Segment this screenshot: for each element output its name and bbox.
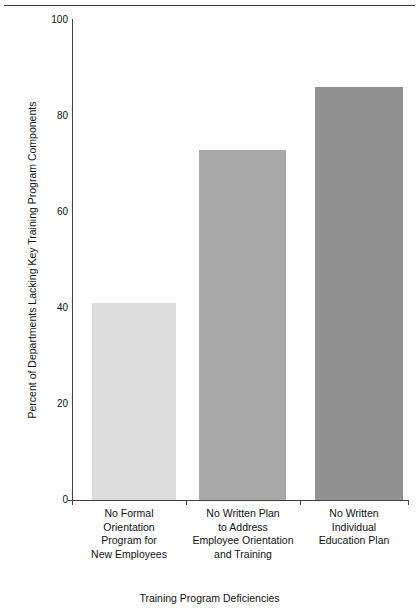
y-axis-tick-value: 40 xyxy=(38,303,68,313)
x-axis-tick-mark xyxy=(186,500,187,505)
x-axis-category-label: No Written Planto AddressEmployee Orient… xyxy=(179,507,307,561)
x-axis-category-label-line: Individual xyxy=(293,521,415,535)
y-axis-tick-label: 20 xyxy=(34,399,68,409)
bar xyxy=(315,87,403,500)
y-axis-title: Percent of Departments Lacking Key Train… xyxy=(26,80,38,440)
y-axis-tick-label: 0 xyxy=(34,495,68,505)
x-axis-category-label-line: Program for xyxy=(65,534,193,548)
x-axis-category-label-line: No Formal xyxy=(65,507,193,521)
y-axis-tick-label: 100 xyxy=(34,15,68,25)
x-axis-category-label-line: Orientation xyxy=(65,521,193,535)
x-axis-line xyxy=(72,500,408,501)
bar-chart-figure: 020406080100 No FormalOrientationProgram… xyxy=(0,0,419,614)
x-axis-tick-mark xyxy=(300,500,301,505)
plot-area: 020406080100 No FormalOrientationProgram… xyxy=(0,0,419,614)
x-axis-category-label: No FormalOrientationProgram forNew Emplo… xyxy=(65,507,193,561)
y-axis-tick-label: 40 xyxy=(34,303,68,313)
x-axis-category-label-line: to Address xyxy=(179,521,307,535)
bar xyxy=(92,303,176,500)
y-axis-tick-label: 80 xyxy=(34,111,68,121)
y-axis-tick-value: 60 xyxy=(38,207,68,217)
x-axis-category-label: No WrittenIndividualEducation Plan xyxy=(293,507,415,548)
x-axis-category-label-line: No Written Plan xyxy=(179,507,307,521)
x-axis-tick-mark xyxy=(72,500,73,505)
y-axis-tick-value: 100 xyxy=(38,15,68,25)
x-axis-category-label-line: and Training xyxy=(179,548,307,562)
x-axis-category-label-line: Education Plan xyxy=(293,534,415,548)
x-axis-category-label-line: New Employees xyxy=(65,548,193,562)
x-axis-category-label-line: Employee Orientation xyxy=(179,534,307,548)
y-axis-tick-value: 0 xyxy=(38,495,68,505)
y-axis-tick-value: 80 xyxy=(38,111,68,121)
y-axis-tick-label: 60 xyxy=(34,207,68,217)
x-axis-tick-mark xyxy=(408,500,409,505)
y-axis-tick-value: 20 xyxy=(38,399,68,409)
x-axis-title: Training Program Deficiencies xyxy=(0,592,419,604)
bar xyxy=(199,150,286,500)
y-axis-line xyxy=(72,19,73,501)
x-axis-category-label-line: No Written xyxy=(293,507,415,521)
